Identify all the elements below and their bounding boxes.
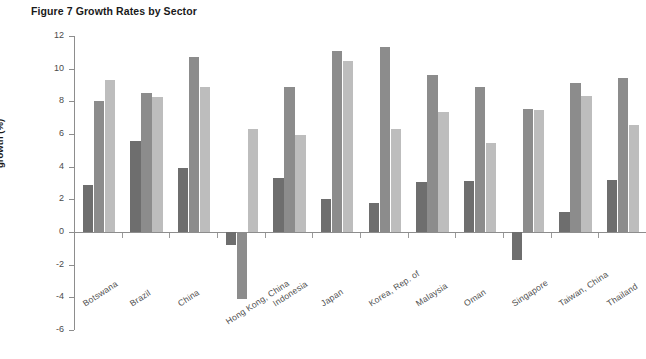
bar	[380, 47, 391, 232]
bar	[237, 232, 248, 299]
bar	[226, 232, 237, 245]
bar	[629, 125, 640, 232]
bar	[438, 112, 449, 232]
x-axis-tick	[455, 233, 456, 238]
y-axis-tick-label: 2	[0, 193, 64, 203]
y-axis-tick-label: -2	[0, 259, 64, 269]
x-axis-tick	[312, 233, 313, 238]
bar	[200, 87, 211, 232]
x-axis-tick	[360, 233, 361, 238]
y-axis-tick-label: 8	[0, 95, 64, 105]
x-axis-tick	[598, 233, 599, 238]
bar	[332, 51, 343, 232]
y-axis-tick-label: -4	[0, 291, 64, 301]
x-axis-tick	[503, 233, 504, 238]
bar	[475, 87, 486, 232]
bar	[284, 87, 295, 232]
bar	[464, 181, 475, 232]
bar	[581, 96, 592, 232]
bar	[512, 232, 523, 260]
y-axis-tick-label: 6	[0, 128, 64, 138]
bar	[559, 212, 570, 232]
bar	[189, 57, 200, 232]
x-axis-tick	[408, 233, 409, 238]
bar	[105, 80, 116, 232]
bar	[486, 143, 497, 232]
y-axis-labels: growth (%)	[0, 0, 67, 359]
y-axis-tick	[69, 330, 74, 331]
bar	[523, 109, 534, 232]
x-axis-tick	[169, 233, 170, 238]
y-axis-tick-label: -6	[0, 324, 64, 334]
y-axis-tick-label: 10	[0, 63, 64, 73]
x-axis-tick	[122, 233, 123, 238]
bar	[94, 101, 105, 232]
bar	[416, 182, 427, 232]
y-axis-tick-label: 0	[0, 226, 64, 236]
bar	[321, 199, 332, 232]
bar	[570, 83, 581, 232]
bar	[534, 110, 545, 233]
x-axis-tick	[265, 233, 266, 238]
y-axis-tick-label: 4	[0, 161, 64, 171]
figure-container: Figure 7 Growth Rates by Sector growth (…	[0, 0, 646, 359]
bar	[607, 180, 618, 232]
y-axis-tick-label: 12	[0, 30, 64, 40]
bar	[369, 203, 380, 232]
bar	[248, 129, 259, 232]
x-axis-tick	[217, 233, 218, 238]
bar	[618, 78, 629, 232]
bar	[273, 178, 284, 232]
bar	[141, 93, 152, 232]
bar	[152, 97, 163, 232]
bar	[343, 61, 354, 233]
bar	[391, 129, 402, 232]
x-axis-tick	[551, 233, 552, 238]
bar	[427, 75, 438, 232]
bar	[295, 135, 306, 232]
bar	[178, 168, 189, 232]
bar	[130, 141, 141, 232]
bar	[83, 185, 94, 232]
